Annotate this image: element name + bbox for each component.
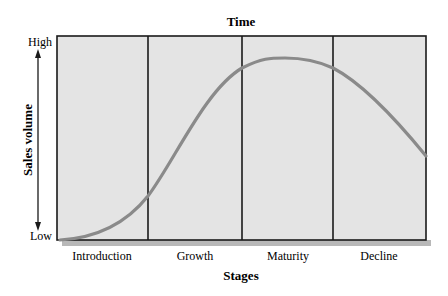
stage-label-maturity: Maturity — [267, 249, 309, 263]
chart-title: Time — [227, 14, 256, 29]
y-axis-label: Sales volume — [20, 104, 35, 176]
product-life-cycle-diagram: Time High Low Sales volume Introduction … — [0, 0, 448, 296]
x-axis-label: Stages — [223, 268, 258, 283]
stage-label-introduction: Introduction — [72, 249, 131, 263]
y-low-label: Low — [30, 229, 52, 243]
stage-label-growth: Growth — [177, 249, 214, 263]
y-high-label: High — [28, 35, 52, 49]
panel-shadow — [62, 240, 431, 246]
arrow-up-icon — [35, 49, 41, 58]
stage-label-decline: Decline — [360, 249, 397, 263]
